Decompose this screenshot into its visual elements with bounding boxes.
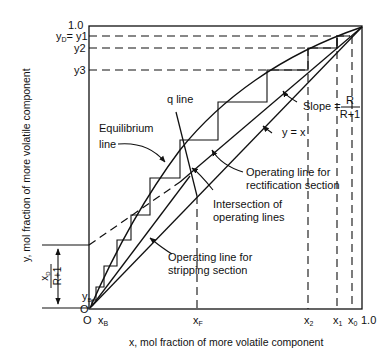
y-eq-x-label: y = x (282, 126, 306, 138)
svg-text:Slope =: Slope = (303, 100, 341, 112)
x-tick-1: 1.0 (361, 314, 376, 326)
rectification-extension (89, 182, 180, 245)
intersection-label-1: Intersection of (213, 198, 283, 210)
x-tick-xb: xB (98, 314, 109, 327)
svg-text:R: R (346, 94, 354, 106)
svg-text:xD: xD (39, 271, 51, 281)
y-tick-yb: yB (82, 290, 92, 303)
y-axis-title: y, mol fraction of more volatile compone… (20, 68, 32, 262)
equilibrium-label-1: Equilibrium (99, 122, 153, 134)
intercept-label: xD R+1 (39, 264, 63, 288)
x-tick-xf: xF (193, 314, 203, 327)
stripping-label-2: stripping section (168, 264, 248, 276)
x-tick-x0: x0 (348, 314, 358, 327)
x-tick-origin: O (83, 314, 92, 326)
rectification-label-2: rectification section (246, 179, 340, 191)
q-line (176, 112, 197, 196)
y-level-dashes (89, 36, 350, 70)
svg-text:R+1: R+1 (340, 108, 361, 120)
x-tick-x2: x2 (304, 314, 314, 327)
x-axis-title: x, mol fraction of more volatile compone… (129, 336, 323, 348)
equilibrium-label-2: line (99, 138, 116, 150)
stripping-operating-line (92, 176, 190, 306)
rectification-label-1: Operating line for (246, 166, 331, 178)
y-tick-y2: y2 (74, 42, 86, 54)
mccabe-thiele-diagram: 1.0 yD= y1 y2 y3 yB O xD R+1 O xB xF x2 … (0, 0, 390, 362)
intersection-label-2: operating lines (213, 211, 285, 223)
x-tick-x1: x1 (333, 314, 343, 327)
svg-text:R+1: R+1 (52, 266, 63, 285)
slope-label: Slope = R R+1 (303, 94, 360, 120)
stripping-label-1: Operating line for (168, 251, 253, 263)
y-tick-y3: y3 (74, 64, 86, 76)
q-line-label: q line (167, 93, 193, 105)
